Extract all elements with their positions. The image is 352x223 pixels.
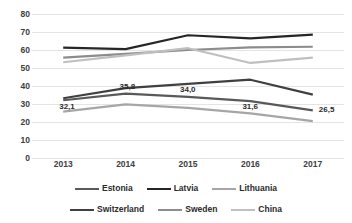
y-axis-tick-label: 50 — [4, 64, 30, 73]
legend-label: Sweden — [185, 205, 217, 214]
data-label: 31,6 — [242, 103, 258, 111]
legend-item-switzerland[interactable]: Switzerland — [70, 205, 144, 214]
y-axis-tick-label: 60 — [4, 46, 30, 55]
legend-item-sweden[interactable]: Sweden — [158, 205, 217, 214]
legend-swatch-icon — [231, 209, 255, 211]
data-label: 26,5 — [319, 106, 335, 114]
x-axis-tick-label: 2016 — [228, 160, 272, 169]
legend-row: SwitzerlandSwedenChina — [0, 199, 352, 220]
plot-area: 32,135,834,031,626,5 — [0, 0, 352, 170]
x-axis-tick-label: 2013 — [41, 160, 85, 169]
legend-label: Switzerland — [97, 205, 144, 214]
legend-swatch-icon — [147, 188, 171, 190]
legend-swatch-icon — [212, 188, 236, 190]
x-axis: 20132014201520162017 — [0, 160, 352, 180]
legend-swatch-icon — [75, 188, 99, 190]
data-label: 34,0 — [180, 86, 196, 94]
legend-item-china[interactable]: China — [231, 205, 282, 214]
legend-swatch-icon — [70, 209, 94, 211]
legend-item-lithuania[interactable]: Lithuania — [212, 184, 277, 193]
legend-item-latvia[interactable]: Latvia — [147, 184, 199, 193]
x-axis-tick-label: 2017 — [291, 160, 335, 169]
line-chart: 32,135,834,031,626,5 01020304050607080 2… — [0, 0, 352, 223]
y-axis-tick-label: 70 — [4, 28, 30, 37]
y-axis-tick-label: 20 — [4, 118, 30, 127]
y-axis-tick-label: 30 — [4, 100, 30, 109]
x-axis-tick-label: 2015 — [166, 160, 210, 169]
legend-label: China — [258, 205, 282, 214]
y-axis: 01020304050607080 — [0, 0, 30, 170]
y-axis-tick-label: 40 — [4, 82, 30, 91]
plot-svg — [0, 0, 352, 170]
legend-row: EstoniaLatviaLithuania — [0, 178, 352, 199]
data-label: 32,1 — [59, 103, 75, 111]
y-axis-tick-label: 10 — [4, 136, 30, 145]
x-axis-tick-label: 2014 — [104, 160, 148, 169]
legend-label: Latvia — [174, 184, 199, 193]
chart-legend: EstoniaLatviaLithuaniaSwitzerlandSwedenC… — [0, 178, 352, 223]
data-label: 35,8 — [120, 83, 136, 91]
y-axis-tick-label: 80 — [4, 10, 30, 19]
series-line-lithuania — [63, 104, 313, 121]
legend-label: Lithuania — [239, 184, 277, 193]
legend-label: Estonia — [102, 184, 133, 193]
legend-item-estonia[interactable]: Estonia — [75, 184, 133, 193]
legend-swatch-icon — [158, 209, 182, 211]
